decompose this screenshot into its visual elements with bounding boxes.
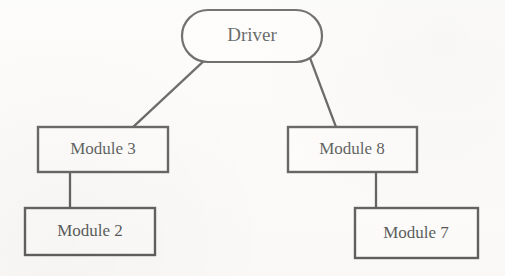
node-module-7[interactable]: Module 7 (355, 208, 478, 258)
driver-node-label: Driver (227, 24, 277, 45)
module-hierarchy-diagram: Driver Module 3 Module 8 Module 2 Module… (0, 0, 505, 276)
node-module-8[interactable]: Module 8 (288, 127, 417, 172)
node-driver[interactable]: Driver (182, 10, 322, 62)
node-module-2[interactable]: Module 2 (25, 208, 155, 255)
module-2-node-label: Module 2 (57, 221, 123, 240)
node-module-3[interactable]: Module 3 (38, 127, 168, 172)
edge-driver-to-module3 (133, 60, 205, 127)
module-7-node-label: Module 7 (383, 223, 449, 242)
edge-driver-to-module8 (310, 58, 336, 127)
module-8-node-label: Module 8 (319, 139, 385, 158)
module-3-node-label: Module 3 (70, 139, 136, 158)
diagram-canvas: Driver Module 3 Module 8 Module 2 Module… (0, 0, 505, 276)
